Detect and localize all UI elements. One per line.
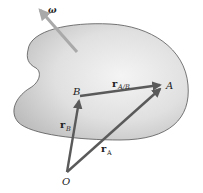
label-r-a: r A xyxy=(101,143,112,157)
rigid-body-shape xyxy=(14,24,188,140)
svg-text:B: B xyxy=(65,125,71,133)
svg-text:A: A xyxy=(106,149,112,157)
point-a-label: A xyxy=(165,80,173,91)
svg-text:A/B: A/B xyxy=(117,83,130,91)
omega-label: ω xyxy=(48,5,57,15)
point-b-label: B xyxy=(72,86,80,97)
point-o-label: O xyxy=(62,176,70,187)
rigid-body-diagram: ω A B O r A/B r B r A xyxy=(0,0,203,193)
